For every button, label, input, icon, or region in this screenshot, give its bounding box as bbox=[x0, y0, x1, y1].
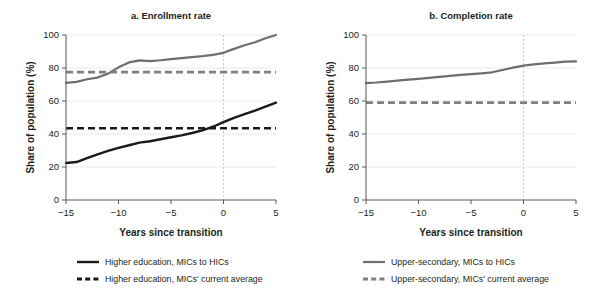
y-tick-label-0: 0 bbox=[54, 194, 59, 205]
y-tick-label-0: 0 bbox=[354, 194, 359, 205]
y-tick-label-60: 60 bbox=[48, 95, 59, 106]
y-tick-label-80: 80 bbox=[348, 62, 359, 73]
y-tick-label-100: 100 bbox=[343, 29, 359, 40]
x-tick-label-0: 0 bbox=[521, 207, 526, 218]
x-tick-label-5: 5 bbox=[273, 207, 278, 218]
x-axis-title: Years since transition bbox=[419, 227, 522, 238]
x-tick-label--15: −15 bbox=[58, 207, 74, 218]
legend-label-1: Higher education, MICs' current average bbox=[105, 274, 263, 284]
x-tick-label--15: −15 bbox=[358, 207, 374, 218]
legend-label-3: Upper-secondary, MICs' current average bbox=[391, 274, 549, 284]
figure-container: a. Enrollment rate020406080100−15−10−505… bbox=[0, 0, 597, 298]
x-tick-label-5: 5 bbox=[573, 207, 578, 218]
legend-label-2: Upper-secondary, MICs to HICs bbox=[391, 257, 516, 267]
y-tick-label-40: 40 bbox=[48, 128, 59, 139]
legend-label-0: Higher education, MICs to HICs bbox=[105, 257, 229, 267]
x-tick-label--10: −10 bbox=[410, 207, 426, 218]
figure-background bbox=[0, 0, 597, 298]
y-tick-label-40: 40 bbox=[348, 128, 359, 139]
y-tick-label-20: 20 bbox=[348, 161, 359, 172]
y-axis-title: Share of population (%) bbox=[25, 61, 36, 173]
y-tick-label-20: 20 bbox=[48, 161, 59, 172]
x-tick-label--10: −10 bbox=[110, 207, 126, 218]
y-tick-label-60: 60 bbox=[348, 95, 359, 106]
x-tick-label--5: −5 bbox=[466, 207, 477, 218]
chart-svg: a. Enrollment rate020406080100−15−10−505… bbox=[0, 0, 597, 298]
x-tick-label-0: 0 bbox=[221, 207, 226, 218]
y-tick-label-80: 80 bbox=[48, 62, 59, 73]
panel-title: b. Completion rate bbox=[429, 10, 512, 21]
y-axis-title: Share of population (%) bbox=[325, 61, 336, 173]
panel-title: a. Enrollment rate bbox=[131, 10, 211, 21]
y-tick-label-100: 100 bbox=[43, 29, 59, 40]
x-axis-title: Years since transition bbox=[119, 227, 222, 238]
x-tick-label--5: −5 bbox=[166, 207, 177, 218]
